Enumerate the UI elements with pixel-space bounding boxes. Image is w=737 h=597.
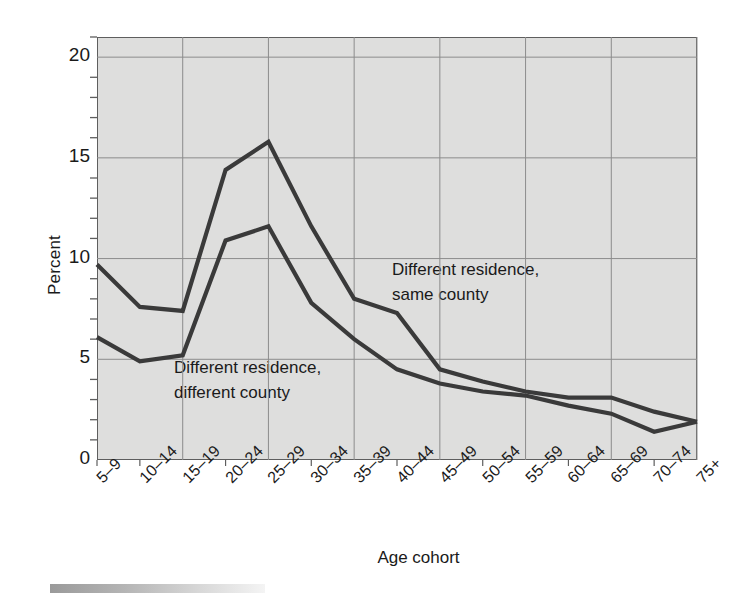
- chart-figure: Percent 05101520 5–910–1415–1920–2425–29…: [0, 0, 737, 597]
- annotation-different-county: Different residence, different county: [174, 356, 321, 405]
- annotation-different-county-line1: Different residence,: [174, 356, 321, 381]
- y-tick-label: 15: [50, 145, 90, 167]
- x-axis-title: Age cohort: [0, 548, 737, 568]
- annotation-same-county: Different residence, same county: [392, 258, 539, 307]
- x-axis-title-text: Age cohort: [377, 548, 459, 567]
- annotation-same-county-line1: Different residence,: [392, 258, 539, 283]
- y-tick-label: 5: [50, 346, 90, 368]
- annotation-same-county-line2: same county: [392, 283, 539, 308]
- x-tick-label: 75+: [693, 454, 725, 486]
- y-tick-label: 10: [50, 246, 90, 268]
- scan-artifact-strip: [50, 584, 265, 593]
- annotation-different-county-line2: different county: [174, 381, 321, 406]
- y-tick-label: 0: [50, 447, 90, 469]
- y-tick-label: 20: [50, 44, 90, 66]
